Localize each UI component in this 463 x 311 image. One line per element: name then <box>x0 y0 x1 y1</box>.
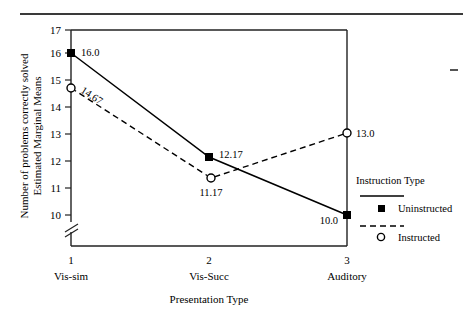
data-point-marker-uninstructed-1 <box>67 49 75 57</box>
y-axis-title-line2: Estimated Marginal Means <box>31 77 43 196</box>
x-tick-label-vis-sim: Vis-sim <box>54 270 89 282</box>
data-label-instructed-2: 11.17 <box>199 187 222 198</box>
plot-frame <box>71 30 347 246</box>
page-horizontal-rule <box>20 13 463 15</box>
data-label-uninstructed-1: 16.0 <box>81 47 99 58</box>
y-axis-title-line1: Number of problems correctly solved <box>18 53 30 218</box>
y-tick-label-11: 11 <box>50 182 61 194</box>
y-tick-label-14: 14 <box>50 101 62 113</box>
data-point-marker-instructed-2 <box>207 174 215 182</box>
x-axis-title: Presentation Type <box>170 293 249 305</box>
legend-title: Instruction Type <box>356 175 425 186</box>
data-point-marker-uninstructed-3 <box>343 211 351 219</box>
x-tick-number-2: 2 <box>206 254 212 266</box>
data-label-instructed-1: 14.67 <box>79 84 105 106</box>
legend-marker-instructed <box>377 233 384 240</box>
x-tick-label-vis-succ: Vis-Succ <box>189 270 229 282</box>
figure-container: 17 16 15 14 13 12 11 10 Number of proble… <box>0 0 463 311</box>
y-tick-label-16: 16 <box>50 47 62 59</box>
y-tick-label-17: 17 <box>50 24 62 36</box>
x-tick-label-auditory: Auditory <box>327 270 367 282</box>
data-point-marker-uninstructed-2 <box>205 153 213 161</box>
legend-label-uninstructed: Uninstructed <box>398 203 453 214</box>
legend: Instruction Type Uninstructed Instructed <box>356 175 453 243</box>
data-point-marker-instructed-3 <box>343 129 351 137</box>
margin-tick-mark <box>450 69 458 71</box>
x-tick-number-3: 3 <box>344 254 350 266</box>
x-tick-number-1: 1 <box>68 254 74 266</box>
y-tick-label-13: 13 <box>50 128 62 140</box>
y-tick-label-10: 10 <box>50 209 62 221</box>
y-axis-ticks <box>65 30 71 215</box>
y-tick-label-15: 15 <box>50 74 62 86</box>
series-instructed <box>67 84 351 182</box>
data-label-uninstructed-2: 12.17 <box>219 149 243 160</box>
data-point-marker-instructed-1 <box>67 84 75 92</box>
y-tick-label-12: 12 <box>50 155 61 167</box>
legend-marker-uninstructed <box>378 205 385 212</box>
chart-svg: 17 16 15 14 13 12 11 10 Number of proble… <box>0 0 463 311</box>
data-label-uninstructed-3: 10.0 <box>320 215 338 226</box>
data-label-instructed-3: 13.0 <box>356 128 374 139</box>
legend-label-instructed: Instructed <box>398 232 441 243</box>
